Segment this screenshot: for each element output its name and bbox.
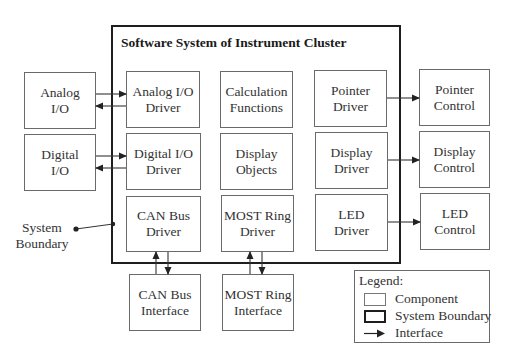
- legend-label: Interface: [395, 325, 443, 341]
- legend-item-component: Component: [364, 291, 458, 307]
- legend-label: Component: [395, 291, 458, 307]
- callout-leader-line: [76, 224, 113, 229]
- component-swatch-icon: [364, 293, 386, 306]
- boundary-swatch-icon: [364, 310, 386, 323]
- legend-item-system-boundary: System Boundary: [364, 308, 491, 324]
- arrow-right-icon: [364, 327, 386, 340]
- instrument-cluster-diagram: Software System of Instrument Cluster An…: [0, 0, 513, 358]
- legend-label: System Boundary: [395, 308, 491, 324]
- legend: Legend: Component System Boundary Interf…: [354, 270, 490, 343]
- system-boundary-callout-label: System Boundary: [10, 220, 74, 252]
- legend-title: Legend:: [359, 273, 403, 289]
- callout-dot-icon: [73, 226, 78, 231]
- callout-anchor-dot-icon: [111, 222, 115, 226]
- figure-caption-cropped: [60, 350, 480, 358]
- legend-item-interface: Interface: [364, 325, 443, 341]
